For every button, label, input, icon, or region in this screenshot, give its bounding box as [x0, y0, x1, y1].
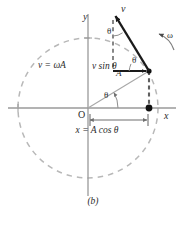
radius-label: A — [116, 69, 122, 78]
angle-arc-top — [113, 33, 123, 36]
angle-label-top: θ — [107, 27, 111, 36]
speed-relation-label: v = ωA — [38, 61, 66, 71]
figure-canvas — [0, 0, 187, 226]
origin-label: O — [78, 110, 85, 120]
angular-velocity-label: ω — [167, 31, 173, 40]
x-projection-label: x = A cos θ — [76, 126, 119, 136]
projection-point-dot — [146, 105, 153, 112]
circular-motion-figure: v y x O ω θ θ θ v = ωA v sin θ A x = A c… — [0, 0, 187, 226]
velocity-label: v — [121, 4, 125, 14]
angle-label-origin: θ — [104, 91, 108, 100]
y-axis-label: y — [83, 12, 87, 22]
angle-arc-origin — [114, 93, 118, 108]
angle-label-corner: θ — [132, 56, 136, 65]
velocity-component-label: v sin θ — [92, 62, 117, 72]
x-axis-label: x — [164, 111, 168, 121]
figure-caption: (b) — [87, 197, 98, 207]
